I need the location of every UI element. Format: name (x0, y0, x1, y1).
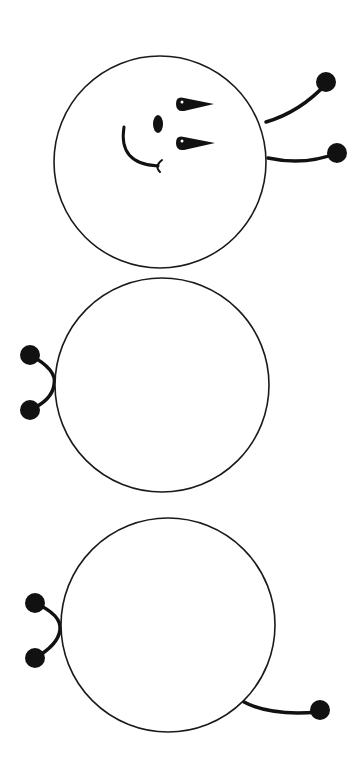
tail-line (244, 702, 318, 713)
antenna-upper-tip (316, 72, 336, 92)
tail-tip (310, 700, 330, 720)
body-segment (20, 278, 269, 492)
eye-lower-highlight (181, 140, 184, 143)
leg-dot-upper (20, 345, 40, 365)
antenna-upper (266, 84, 326, 122)
eye-upper-highlight (181, 101, 184, 104)
body-circle (55, 278, 269, 492)
tail-segment (25, 518, 330, 732)
leg-dot-lower (20, 400, 40, 420)
leg-dot-lower (25, 648, 45, 668)
leg-dot-upper (25, 593, 45, 613)
head-segment (54, 56, 347, 268)
antenna-lower-tip (327, 143, 347, 163)
antenna-lower (268, 153, 337, 161)
caterpillar-drawing (0, 0, 362, 772)
tail-circle (61, 518, 275, 732)
nose-icon (153, 115, 163, 133)
